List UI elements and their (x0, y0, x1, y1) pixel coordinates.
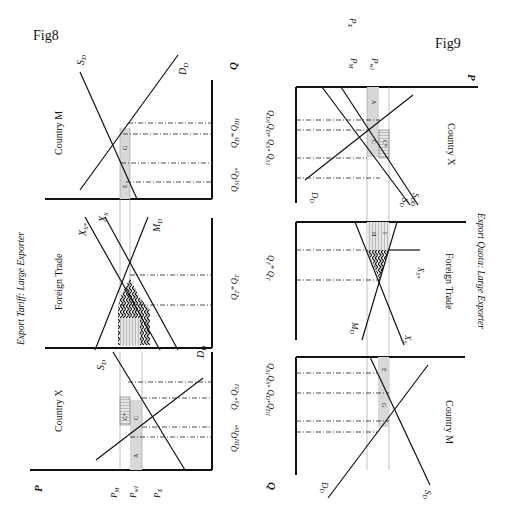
fig9-md: MD (349, 321, 360, 335)
fig9-px-label: PX (347, 17, 358, 28)
fig9-dd-label: DD (309, 191, 320, 204)
fig8-m-q-label: Q (227, 62, 239, 70)
fig9-country-m-title: Country M (444, 400, 455, 444)
fig8-title: Export Tariff: Large Exporter (16, 232, 26, 346)
fig9-pw1-label: Pw1 (369, 57, 380, 71)
fig9-sdd-label: SDD (410, 193, 421, 207)
fig8-x-sd-label: SD (95, 360, 108, 370)
fig8-x-p-label: P (32, 485, 44, 492)
fig8-x-q-ticks-1: QD1QD* (229, 425, 240, 452)
fig9-p-label: P (466, 74, 478, 81)
svg-text:I: I (382, 232, 388, 234)
fig8-label: Fig8 (33, 28, 59, 43)
fig9-m-q-ticks: QS1QS* QD*QD1 (265, 363, 276, 416)
svg-text:E: E (122, 184, 128, 188)
fig8-ft-title: Foreign Trade (53, 253, 64, 310)
fig8-country-x-panel: Country X C* C A SD DD QD1QD* QS* QS1 P … (30, 346, 240, 499)
fig8: Fig8 Export Tariff: Large Exporter Count… (16, 28, 240, 499)
fig9-title: Export Quota: Large Exporter (476, 212, 486, 329)
fig8-country-m-title: Country M (53, 111, 64, 155)
fig9-xs: XS (402, 334, 413, 344)
fig9: Fig9 Export Quota: Large Exporter Countr… (265, 17, 486, 500)
fig8-x-q-ticks-2: QS* QS1 (229, 384, 240, 410)
fig8-ft-md: MD (151, 219, 164, 233)
svg-text:C*: C* (122, 413, 128, 420)
fig9-ft-q-ticks: QT* QT (265, 255, 276, 281)
fig8-m-sd-label: SD (75, 55, 88, 65)
fig9-q-label: Q (266, 482, 278, 490)
svg-text:E: E (381, 368, 387, 372)
svg-text:H: H (371, 232, 377, 237)
fig8-pw1-label: Pw1 (128, 485, 139, 499)
fig9-m-dd-label: DD (319, 481, 330, 494)
fig8-ft-xs-star: XS* (77, 222, 90, 237)
fig8-m-dd-label: DD (177, 63, 190, 76)
svg-text:A: A (371, 100, 377, 105)
fig8-ft-revenue (120, 318, 140, 346)
fig8-foreign-trade-panel: Foreign Trade XS* XS MD QT* QT (45, 212, 240, 350)
fig8-x-demand-curve (96, 378, 203, 460)
fig9-ft-title: Foreign Trade (444, 253, 455, 310)
fig8-m-q-ticks-1: QD* QD1 (229, 118, 240, 148)
fig8-px-label: PX (152, 489, 163, 500)
svg-text:C: C (371, 140, 377, 144)
fig9-x-q-ticks: QD1QD* QS* QS1 (265, 110, 276, 166)
svg-text:A: A (133, 453, 139, 458)
fig8-pm-label: PM (109, 487, 120, 500)
svg-text:G: G (381, 403, 387, 408)
fig9-foreign-trade-panel: Foreign Trade H I XS* XS MD QT* QT (265, 222, 466, 345)
figure-canvas: Fig8 Export Tariff: Large Exporter Count… (0, 0, 508, 528)
fig9-pm-label: PM (348, 57, 359, 70)
svg-text:C*: C* (382, 140, 388, 147)
fig9-m-sd-label: SD (422, 490, 433, 500)
fig9-xs-star: XS* (415, 266, 426, 279)
svg-text:C: C (133, 416, 139, 420)
fig8-country-x-title: Country X (53, 389, 64, 432)
fig8-ft-q-ticks: QT* QT (229, 274, 240, 300)
fig9-country-x-title: Country X (446, 123, 457, 166)
fig9-label: Fig9 (435, 36, 461, 51)
fig9-country-m-panel: Country M E G QS1QS* QD*QD1 Q DD SD (265, 357, 465, 500)
svg-text:G: G (122, 145, 128, 150)
fig8-m-q-ticks-2: QS1QS* (229, 168, 240, 192)
